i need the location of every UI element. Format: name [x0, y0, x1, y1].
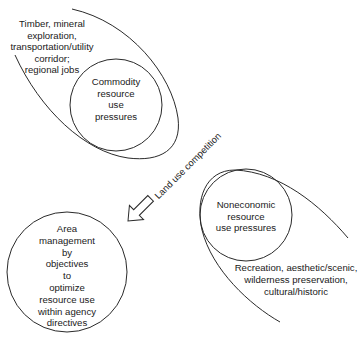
- noneconomic-label: Noneconomic resource use pressures: [206, 199, 286, 234]
- competition-arrow-icon: [121, 191, 158, 228]
- noneconomic-context-label: Recreation, aesthetic/scenic, wilderness…: [232, 262, 360, 298]
- noneconomic-outer-ellipse: [200, 170, 348, 322]
- commodity-label: Commodity resource use pressures: [76, 76, 156, 122]
- management-label: Area management by objectives to optimiz…: [22, 223, 112, 329]
- commodity-context-label: Timber, mineral exploration, transportat…: [4, 18, 100, 76]
